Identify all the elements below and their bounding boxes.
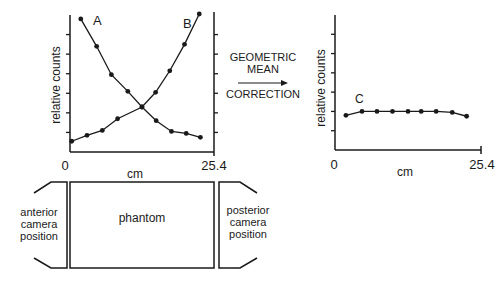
- data-point-b: [140, 105, 145, 110]
- phantom-box: [70, 182, 214, 268]
- data-point-a: [94, 44, 99, 49]
- posterior-label-3: position: [229, 228, 267, 240]
- data-point-c: [375, 109, 380, 114]
- anterior-label-2: camera: [21, 218, 59, 230]
- data-point-c: [406, 109, 411, 114]
- data-point-c: [464, 114, 469, 119]
- middle-text-line2: MEAN: [247, 63, 279, 75]
- anterior-label-1: anterior: [20, 206, 58, 218]
- middle-text-line3: CORRECTION: [226, 88, 300, 100]
- data-point-a: [78, 17, 83, 22]
- left-x-axis-label: cm: [127, 167, 143, 181]
- data-point-b: [100, 128, 105, 133]
- series-label-b: B: [183, 16, 192, 31]
- data-point-c: [344, 113, 349, 118]
- data-point-c: [419, 109, 424, 114]
- series-line-b: [72, 14, 200, 141]
- anterior-label-3: position: [20, 230, 58, 242]
- diagram-canvas: 0 25.4 cm relative counts A B GEOMETRIC …: [0, 0, 503, 295]
- data-point-a: [198, 135, 203, 140]
- right-x-tick-end: 25.4: [469, 157, 494, 172]
- data-point-c: [450, 110, 455, 115]
- data-point-c: [360, 109, 365, 114]
- left-x-tick-0: 0: [61, 158, 68, 173]
- data-point-c: [390, 109, 395, 114]
- data-point-a: [154, 118, 159, 123]
- series-label-a: A: [93, 13, 102, 28]
- middle-text-line1: GEOMETRIC: [230, 51, 297, 63]
- phantom-label: phantom: [119, 211, 166, 225]
- data-point-b: [85, 133, 90, 138]
- left-y-axis-label: relative counts: [49, 46, 63, 123]
- data-point-a: [125, 89, 130, 94]
- data-point-c: [434, 109, 439, 114]
- data-point-a: [109, 72, 114, 77]
- phantom-diagram: phantom anterior camera position posteri…: [20, 182, 270, 268]
- data-point-b: [182, 42, 187, 47]
- right-x-axis-label: cm: [397, 165, 413, 179]
- data-point-b: [197, 12, 202, 17]
- arrow-right-icon: [281, 80, 288, 86]
- right-x-tick-0: 0: [330, 157, 337, 172]
- posterior-label-2: camera: [230, 216, 268, 228]
- left-x-tick-end: 25.4: [201, 158, 226, 173]
- geometric-mean-annotation: GEOMETRIC MEAN CORRECTION: [226, 51, 300, 100]
- data-point-b: [115, 116, 120, 121]
- right-y-axis-label: relative counts: [314, 49, 328, 126]
- series-line-a: [81, 19, 201, 137]
- data-point-b: [167, 68, 172, 73]
- data-point-b: [69, 139, 74, 144]
- data-point-b: [153, 90, 158, 95]
- right-chart: 0 25.4 cm relative counts C: [314, 15, 495, 179]
- data-point-a: [184, 131, 189, 136]
- posterior-label-1: posterior: [227, 204, 270, 216]
- left-chart: 0 25.4 cm relative counts A B: [49, 12, 227, 181]
- data-point-a: [169, 129, 174, 134]
- series-label-c: C: [355, 92, 364, 106]
